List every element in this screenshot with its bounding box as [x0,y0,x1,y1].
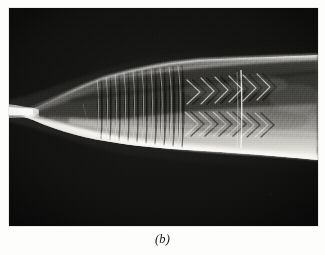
photograph-plate [9,8,318,226]
figure-caption: (b) [0,232,325,247]
schlieren-photograph [9,8,318,226]
figure-root: (b) [0,0,325,255]
